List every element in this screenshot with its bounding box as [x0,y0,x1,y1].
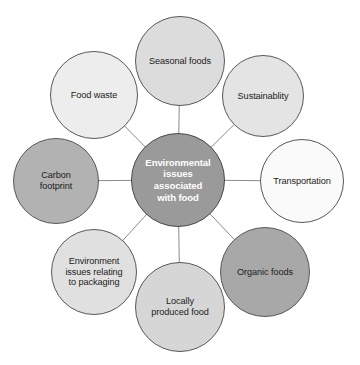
node-locally-produced-food[interactable]: Locally produced food [135,262,225,352]
connector-line-environment-issues-packaging [122,214,147,241]
node-environment-issues-packaging[interactable]: Environment issues relating to packaging [51,229,137,315]
node-hub-environmental-issues-label: Environmental issues associated with foo… [140,157,215,204]
node-carbon-footprint[interactable]: Carbon footprint [13,138,99,224]
node-carbon-footprint-label: Carbon footprint [35,170,77,192]
node-seasonal-foods[interactable]: Seasonal foods [135,16,225,106]
node-environment-issues-packaging-label: Environment issues relating to packaging [60,256,127,289]
node-sustainablity[interactable]: Sustainablity [222,55,304,137]
connector-line-locally-produced-food [179,226,180,263]
connector-line-food-waste [124,126,145,148]
node-transportation-label: Transportation [268,176,336,187]
node-food-waste[interactable]: Food waste [50,51,138,139]
node-sustainablity-label: Sustainablity [233,91,294,102]
node-locally-produced-food-label: Locally produced food [146,296,213,318]
connector-line-organic-foods [210,213,235,240]
node-organic-foods-label: Organic foods [232,267,298,278]
mind-map-diagram: Seasonal foodsSustainablityTransportatio… [0,0,360,365]
connector-line-sustainablity [211,124,235,148]
node-food-waste-label: Food waste [66,90,123,101]
node-organic-foods[interactable]: Organic foods [220,227,310,317]
node-transportation[interactable]: Transportation [260,139,344,223]
node-hub-environmental-issues[interactable]: Environmental issues associated with foo… [131,133,225,227]
node-seasonal-foods-label: Seasonal foods [144,56,216,67]
